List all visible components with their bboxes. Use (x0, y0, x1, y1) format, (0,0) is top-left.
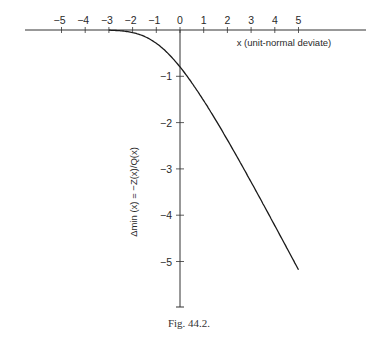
x-axis-label: x (unit-normal deviate) (237, 37, 332, 48)
x-tick-label: −4 (77, 14, 89, 26)
y-tick-label: −1 (160, 70, 172, 82)
y-tick-label: −3 (160, 163, 172, 175)
x-tick-label: 1 (201, 14, 207, 26)
y-axis-label: Δmin (x) = −Z(x)/Q(x) (128, 147, 139, 237)
x-tick-label: 2 (224, 14, 230, 26)
figure-caption: Fig. 44.2. (0, 317, 378, 329)
x-tick-label: −3 (101, 14, 113, 26)
x-tick-label: 4 (272, 14, 278, 26)
y-tick-label: −4 (160, 209, 172, 221)
x-tick-label: −1 (148, 14, 160, 26)
x-tick-label: 3 (248, 14, 254, 26)
x-tick-label: −2 (125, 14, 137, 26)
x-tick-label: 5 (296, 14, 302, 26)
x-tick-label: −5 (54, 14, 66, 26)
y-tick-label: −5 (160, 256, 172, 268)
y-tick-label: −2 (160, 117, 172, 129)
x-tick-label: 0 (177, 14, 183, 26)
chart-canvas: −5−4−3−2−1012345 −1−2−3−4−5 x (unit-norm… (0, 0, 378, 340)
